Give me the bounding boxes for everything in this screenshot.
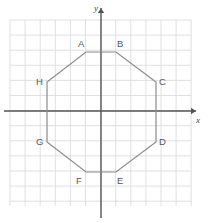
vertex-label-a: A [78, 38, 85, 49]
x-axis-arrow-icon [191, 108, 196, 114]
vertex-label-e: E [117, 175, 123, 186]
vertex-label-b: B [117, 38, 123, 49]
vertex-label-g: G [36, 136, 43, 147]
x-axis-label: x [195, 115, 200, 125]
y-axis-arrow-icon [98, 8, 104, 13]
y-axis-label: y [93, 3, 98, 13]
vertex-label-d: D [159, 136, 166, 147]
vertex-label-c: C [159, 76, 166, 87]
vertex-label-h: H [36, 76, 43, 87]
vertex-label-f: F [76, 175, 82, 186]
octagon-coordinate-figure: ABCDEFGH x y [0, 0, 214, 223]
figure-svg: ABCDEFGH x y [0, 0, 214, 223]
